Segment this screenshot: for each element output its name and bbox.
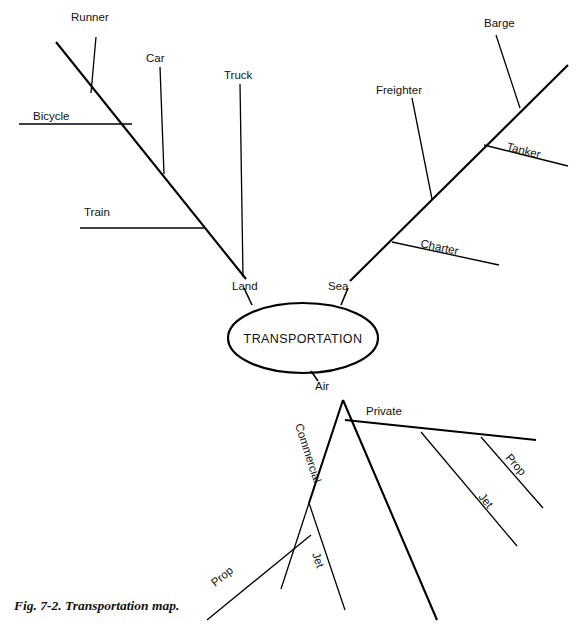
barge-line — [496, 35, 520, 108]
land-trunk-line — [56, 42, 246, 279]
label-commercial-jet: Jet — [310, 551, 327, 570]
label-transportation: TRANSPORTATION — [244, 332, 363, 346]
air-branch-group: Air Commercial Prop Jet Private Jet Prop — [207, 371, 543, 620]
freighter-line — [412, 98, 432, 199]
label-sea: Sea — [328, 280, 349, 292]
label-freighter: Freighter — [376, 84, 422, 96]
label-private-jet: Jet — [476, 491, 495, 511]
hub-group: TRANSPORTATION — [228, 303, 378, 373]
label-charter: Charter — [420, 237, 460, 257]
transportation-map-figure: Runner Bicycle Car Train Truck Land Frei… — [0, 0, 577, 633]
label-commercial-prop: Prop — [209, 564, 235, 589]
figure-caption: Fig. 7-2. Transportation map. — [14, 598, 179, 614]
air-middle-diagonal-line — [343, 400, 437, 620]
sea-branch-group: Freighter Barge Tanker Charter Sea — [328, 17, 568, 305]
label-private-prop: Prop — [503, 451, 528, 477]
truck-line — [240, 84, 243, 277]
commercial-middle-line — [281, 503, 309, 589]
label-barge: Barge — [484, 17, 515, 29]
label-bicycle: Bicycle — [33, 110, 69, 122]
land-branch-group: Runner Bicycle Car Train Truck Land — [19, 11, 258, 305]
private-jet-line — [421, 432, 517, 546]
label-air: Air — [315, 380, 329, 392]
private-trunk-line — [345, 420, 536, 440]
car-line — [160, 67, 164, 174]
label-runner: Runner — [71, 11, 109, 23]
mind-map-canvas: Runner Bicycle Car Train Truck Land Frei… — [0, 0, 577, 633]
runner-line — [91, 37, 96, 93]
label-land: Land — [232, 280, 258, 292]
label-commercial: Commercial — [293, 422, 323, 484]
label-car: Car — [146, 52, 165, 64]
label-truck: Truck — [224, 69, 253, 81]
label-tanker: Tanker — [506, 140, 543, 160]
label-train: Train — [84, 206, 110, 218]
label-private: Private — [366, 405, 402, 417]
sea-trunk-line — [350, 65, 568, 281]
